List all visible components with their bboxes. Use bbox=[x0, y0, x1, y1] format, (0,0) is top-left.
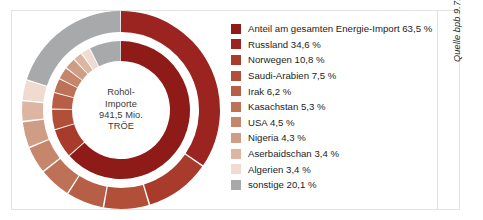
legend-color-swatch bbox=[231, 180, 241, 190]
donut-segment bbox=[104, 185, 149, 209]
legend-item: Algerien 3,4 % bbox=[231, 161, 431, 177]
legend-item-label: Irak 6,2 % bbox=[248, 86, 291, 97]
legend-item: sonstige 20,1 % bbox=[231, 177, 431, 193]
legend-item-label: sonstige 20,1 % bbox=[248, 179, 317, 190]
legend-color-swatch bbox=[231, 86, 241, 96]
legend-item-label: Norwegen 10,8 % bbox=[248, 54, 325, 65]
legend-item-label: USA 4,5 % bbox=[248, 117, 295, 128]
legend-item-label: Anteil am gesamten Energie-Import 63,5 % bbox=[248, 23, 432, 34]
legend-item-label: Kasachstan 5,3 % bbox=[248, 101, 326, 112]
legend-item-label: Nigeria 4,3 % bbox=[248, 132, 306, 143]
legend-item: Norwegen 10,8 % bbox=[231, 52, 431, 68]
legend-item: Irak 6,2 % bbox=[231, 83, 431, 99]
source-attribution: Quelle bpb 9.7.2019 bbox=[452, 0, 462, 62]
donut-segment bbox=[70, 41, 190, 179]
legend-item-label: Aserbaidschan 3,4 % bbox=[248, 148, 339, 159]
legend-color-swatch bbox=[231, 164, 241, 174]
legend-item: Aserbaidschan 3,4 % bbox=[231, 146, 431, 162]
legend-item-label: Algerien 3,4 % bbox=[248, 164, 311, 175]
legend-item: Saudi-Arabien 7,5 % bbox=[231, 68, 431, 84]
donut-svg bbox=[17, 5, 225, 215]
chart-legend: Anteil am gesamten Energie-Import 63,5 %… bbox=[231, 21, 431, 193]
donut-ring-inner bbox=[52, 41, 190, 179]
legend-color-swatch bbox=[231, 133, 241, 143]
legend-color-swatch bbox=[231, 117, 241, 127]
legend-item: USA 4,5 % bbox=[231, 115, 431, 131]
donut-chart: Rohöl- Importe 941,5 Mio. TRÖE bbox=[17, 5, 225, 215]
legend-color-swatch bbox=[231, 149, 241, 159]
legend-color-swatch bbox=[231, 55, 241, 65]
donut-ring-outer bbox=[22, 11, 220, 209]
legend-item-label: Saudi-Arabien 7,5 % bbox=[248, 70, 336, 81]
legend-item-label: Russland 34,6 % bbox=[248, 39, 321, 50]
donut-segment bbox=[22, 101, 43, 121]
chart-figure: Rohöl- Importe 941,5 Mio. TRÖE Anteil am… bbox=[0, 0, 483, 220]
legend-color-swatch bbox=[231, 102, 241, 112]
legend-item: Nigeria 4,3 % bbox=[231, 130, 431, 146]
legend-color-swatch bbox=[231, 24, 241, 34]
vertical-divider bbox=[437, 11, 438, 209]
legend-item: Russland 34,6 % bbox=[231, 37, 431, 53]
legend-item: Anteil am gesamten Energie-Import 63,5 % bbox=[231, 21, 431, 37]
legend-item: Kasachstan 5,3 % bbox=[231, 99, 431, 115]
legend-color-swatch bbox=[231, 39, 241, 49]
legend-color-swatch bbox=[231, 71, 241, 81]
